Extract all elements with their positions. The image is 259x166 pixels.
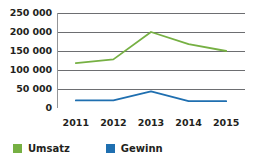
x-tick-label: 2014 — [169, 117, 209, 129]
series-line-gewinn — [76, 91, 226, 101]
x-tick-label: 2012 — [93, 117, 133, 129]
legend-swatch-icon — [13, 144, 22, 153]
legend-label: Gewinn — [121, 143, 163, 154]
line-chart: 050 000100 000150 000200 000250 000 2011… — [0, 0, 259, 166]
plot-area — [57, 13, 245, 108]
y-tick-label: 150 000 — [0, 46, 52, 56]
y-tick-label: 0 — [0, 103, 52, 113]
x-tick-label: 2011 — [56, 117, 96, 129]
chart-legend: UmsatzGewinn — [13, 143, 163, 154]
legend-label: Umsatz — [28, 143, 70, 154]
y-tick-label: 50 000 — [0, 84, 52, 94]
legend-swatch-icon — [106, 144, 115, 153]
x-tick-label: 2013 — [131, 117, 171, 129]
x-tick-label: 2015 — [206, 117, 246, 129]
x-axis: 20112012201320142015 — [57, 117, 245, 133]
series-line-umsatz — [76, 32, 226, 63]
plot-svg — [57, 13, 245, 108]
y-tick-label: 200 000 — [0, 27, 52, 37]
y-tick-label: 250 000 — [0, 8, 52, 18]
legend-item-gewinn[interactable]: Gewinn — [106, 143, 163, 154]
y-tick-label: 100 000 — [0, 65, 52, 75]
y-axis: 050 000100 000150 000200 000250 000 — [0, 0, 52, 125]
legend-item-umsatz[interactable]: Umsatz — [13, 143, 70, 154]
